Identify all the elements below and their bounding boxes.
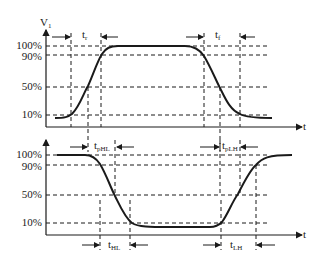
top-chart [46,30,302,152]
top-y-axis-label: V1 [40,17,51,30]
bottom-level-50: 50% [2,189,42,200]
bottom-level-100: 100% [2,149,42,160]
top-level-50: 50% [2,81,42,92]
top-x-axis-label: t [303,121,306,132]
top-level-90: 90% [2,51,42,62]
thl-label: tHL [108,239,120,252]
bottom-chart [46,140,302,250]
bottom-x-axis-label: t [303,229,306,240]
tphl-label: tpHL [94,140,110,153]
bottom-level-90: 90% [2,161,42,172]
timing-diagram-graphic [0,0,320,266]
fall-time-label: tf [215,29,220,42]
tplh-label: tpLH [222,140,238,153]
tlh-label: tLH [230,239,242,252]
top-level-10: 10% [2,109,42,120]
bottom-level-10: 10% [2,217,42,228]
rise-time-label: tr [82,29,87,42]
